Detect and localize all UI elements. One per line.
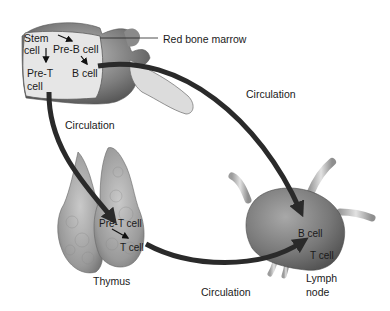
t-cell-lymph-node-label: T cell xyxy=(310,250,334,262)
stem-cell-label-line1: Stem xyxy=(24,32,49,44)
b-cell-lymph-node-label: B cell xyxy=(298,228,322,240)
circulation-label-3: Circulation xyxy=(201,286,251,298)
lymph-node-label-line2: node xyxy=(306,286,329,298)
stem-cell-label-line2: cell xyxy=(24,44,40,56)
b-cell-marrow-label: B cell xyxy=(72,67,98,79)
circulation-label-2: Circulation xyxy=(65,119,115,131)
pre-t-cell-thymus-label: Pre-T cell xyxy=(99,218,142,230)
lymphocyte-diagram: Red bone marrow Stem cell Pre-B cell B c… xyxy=(0,0,390,311)
pre-t-cell-marrow-label-line1: Pre-T xyxy=(27,67,53,79)
lymph-node-label-line1: Lymph xyxy=(306,272,337,284)
pre-t-cell-marrow-label-line2: cell xyxy=(27,80,43,92)
circulation-label-1: Circulation xyxy=(246,88,296,100)
thymus-label: Thymus xyxy=(93,275,130,287)
t-cell-thymus-label: T cell xyxy=(120,242,144,254)
pre-b-cell-label: Pre-B cell xyxy=(53,43,99,55)
red-bone-marrow-label: Red bone marrow xyxy=(163,33,246,45)
